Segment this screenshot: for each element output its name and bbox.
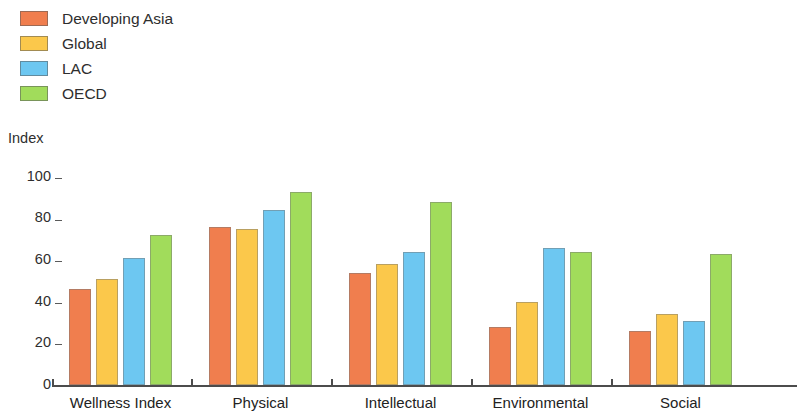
bar[interactable] xyxy=(543,248,565,385)
bar[interactable] xyxy=(489,327,511,385)
bar[interactable] xyxy=(376,264,398,385)
y-axis-tick-label: 20 xyxy=(35,335,51,350)
legend-item-label: OECD xyxy=(62,86,107,102)
bar-group-bars xyxy=(629,130,732,385)
bar[interactable] xyxy=(430,202,452,385)
legend-item: Developing Asia xyxy=(20,6,320,31)
legend-item-label: Developing Asia xyxy=(62,11,173,27)
y-axis-tick-label: 60 xyxy=(35,252,51,267)
y-axis-tick-label: 40 xyxy=(35,294,51,309)
legend-swatch-icon xyxy=(20,86,48,101)
y-axis-tick-label: 100 xyxy=(27,169,51,184)
legend-swatch-icon xyxy=(20,61,48,76)
y-axis-tick-label: 80 xyxy=(35,210,51,225)
legend-item: Global xyxy=(20,31,320,56)
x-axis-category-label: Social xyxy=(589,394,772,411)
x-axis-origin-tick xyxy=(52,379,54,386)
bar[interactable] xyxy=(150,235,172,385)
bar[interactable] xyxy=(403,252,425,385)
chart-legend: Developing Asia Global LAC OECD xyxy=(20,6,320,106)
bar[interactable] xyxy=(629,331,651,385)
legend-item-label: LAC xyxy=(62,61,92,77)
bar[interactable] xyxy=(516,302,538,385)
bar-group xyxy=(629,130,732,385)
bar-group xyxy=(489,130,592,385)
bar-group-bars xyxy=(349,130,452,385)
legend-item-label: Global xyxy=(62,36,107,52)
bar-group-bars xyxy=(489,130,592,385)
legend-item: OECD xyxy=(20,81,320,106)
bar[interactable] xyxy=(123,258,145,385)
bar[interactable] xyxy=(263,210,285,385)
y-axis-tick-label: 0 xyxy=(43,377,51,392)
x-axis-group-separator-tick xyxy=(191,379,193,386)
legend-item: LAC xyxy=(20,56,320,81)
bar-group-bars xyxy=(209,130,312,385)
y-axis-ticks: 100806040200 xyxy=(0,130,62,419)
x-axis-group-separator-tick xyxy=(611,379,613,386)
bar[interactable] xyxy=(236,229,258,385)
x-axis-line xyxy=(52,385,797,387)
legend-swatch-icon xyxy=(20,11,48,26)
legend-swatch-icon xyxy=(20,36,48,51)
bar-group xyxy=(349,130,452,385)
bar[interactable] xyxy=(96,279,118,385)
bar[interactable] xyxy=(656,314,678,385)
bar[interactable] xyxy=(349,273,371,385)
bar[interactable] xyxy=(570,252,592,385)
x-axis-group-separator-tick xyxy=(331,379,333,386)
x-axis-group-separator-tick xyxy=(471,379,473,386)
bar[interactable] xyxy=(683,321,705,385)
bar-groups xyxy=(57,130,797,386)
bar[interactable] xyxy=(69,289,91,385)
bar-chart-plot-area: Index 100806040200 Wellness IndexPhysica… xyxy=(0,130,805,419)
bar-group xyxy=(69,130,172,385)
bar-group xyxy=(209,130,312,385)
bar[interactable] xyxy=(209,227,231,385)
bar-group-bars xyxy=(69,130,172,385)
bar[interactable] xyxy=(290,192,312,385)
bar[interactable] xyxy=(710,254,732,385)
